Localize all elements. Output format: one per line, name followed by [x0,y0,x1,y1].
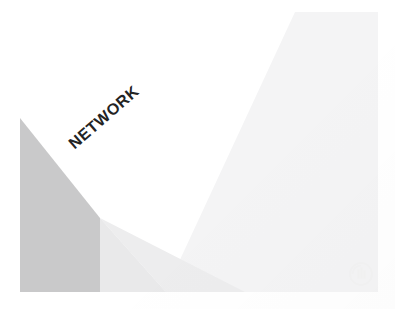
circle-bars-logo-icon [348,261,374,287]
artwork-stage: NETWORK [0,0,395,309]
slide-title: NETWORK [66,83,142,152]
slide-canvas: NETWORK [0,0,395,309]
